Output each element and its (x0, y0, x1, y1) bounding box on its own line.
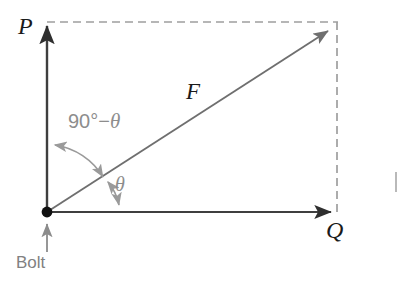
p-axis-label: P (18, 14, 33, 38)
q-axis-label: Q (326, 218, 343, 242)
complement-angle-prefix: 90°− (68, 110, 110, 132)
complement-angle-theta: θ (110, 109, 120, 133)
complement-angle-arc (55, 145, 103, 177)
complement-angle-label: 90°−θ (68, 111, 120, 132)
theta-angle-label: θ (115, 174, 125, 194)
force-diagram-canvas: P Q F Bolt θ 90°−θ (0, 0, 405, 286)
resultant-force-label: F (186, 80, 200, 103)
right-edge-artifact (395, 172, 397, 192)
diagram-vector-graphics (0, 0, 405, 286)
bolt-origin-dot (42, 207, 53, 218)
bolt-label: Bolt (16, 254, 45, 271)
